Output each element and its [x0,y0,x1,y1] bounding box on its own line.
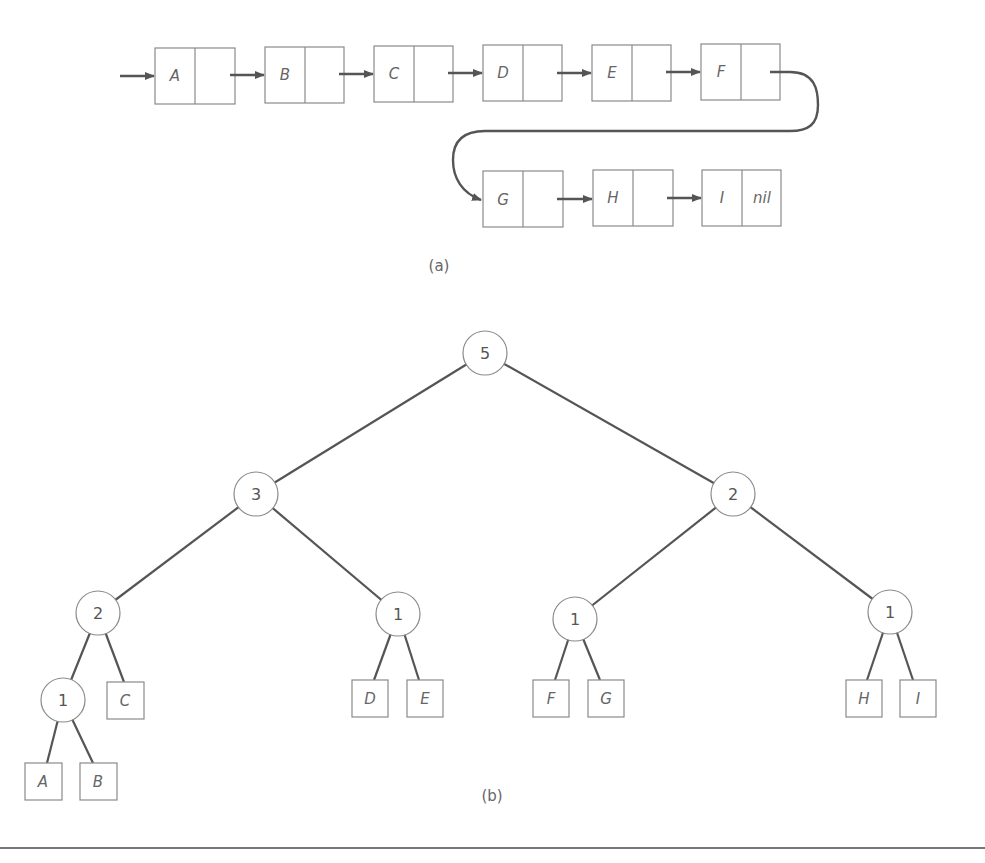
list-node-b: B [265,47,344,103]
tree-edge [98,494,256,613]
tree-edge [256,353,485,494]
leaf-label: A [37,773,48,791]
leaf-label: C [120,692,131,710]
binary-tree: 5 3 2 2 1 1 1 1 [25,331,936,805]
leaf-label: G [600,690,612,708]
caption-b: (b) [481,787,502,805]
node-weight: 1 [58,691,68,710]
node-weight: 3 [251,485,261,504]
node-weight: 2 [93,604,103,623]
list-node-label: C [389,65,400,83]
list-node-d: D [483,45,562,101]
tree-leaf-g: G [588,680,624,717]
list-node-e: E [592,45,671,101]
list-node-i: I nil [702,170,781,226]
tree-edge [575,494,733,619]
list-node-g: G [483,171,563,227]
tree-leaf-i: I [900,680,936,717]
leaf-label: I [916,690,921,708]
list-node-label: I [720,189,725,207]
tree-node-l: 3 [234,472,278,516]
leaf-label: D [364,690,376,708]
tree-leaf-a: A [25,763,62,800]
node-weight: 5 [480,344,490,363]
tree-node-ll: 2 [76,591,120,635]
tree-leaf-e: E [407,680,443,717]
list-node-label: D [497,64,509,82]
tree-edge [485,353,733,494]
tree-leaf-h: H [846,680,882,717]
tree-node-r: 2 [711,472,755,516]
tree-node-root: 5 [463,331,507,375]
nil-pointer-label: nil [753,189,772,207]
tree-node-rl: 1 [553,597,597,641]
list-node-c: C [374,46,453,102]
list-node-h: H [593,170,673,226]
tree-node-lr: 1 [376,592,420,636]
list-node-f: F [701,44,780,100]
list-node-label: E [607,64,617,82]
tree-leaf-c: C [107,682,144,719]
leaf-label: H [858,690,869,708]
figure-canvas: A B C D E F [0,0,985,863]
list-node-label: G [497,191,509,209]
leaf-label: E [420,690,430,708]
node-weight: 1 [570,610,580,629]
tree-node-lll: 1 [41,678,85,722]
list-node-a: A [155,48,235,104]
leaf-label: B [93,773,103,791]
list-node-label: F [717,63,726,81]
linked-list: A B C D E F [120,44,818,275]
node-weight: 1 [885,603,895,622]
tree-edge [733,494,890,612]
node-weight: 2 [728,485,738,504]
caption-a: (a) [429,257,450,275]
tree-edge [256,494,398,614]
tree-leaf-d: D [352,680,388,717]
leaf-label: F [547,690,556,708]
tree-node-rr: 1 [868,590,912,634]
list-node-label: H [607,189,618,207]
list-node-label: B [280,66,290,84]
tree-leaf-b: B [80,763,117,800]
tree-leaf-f: F [533,680,569,717]
node-weight: 1 [393,605,403,624]
list-node-label: A [169,67,180,85]
